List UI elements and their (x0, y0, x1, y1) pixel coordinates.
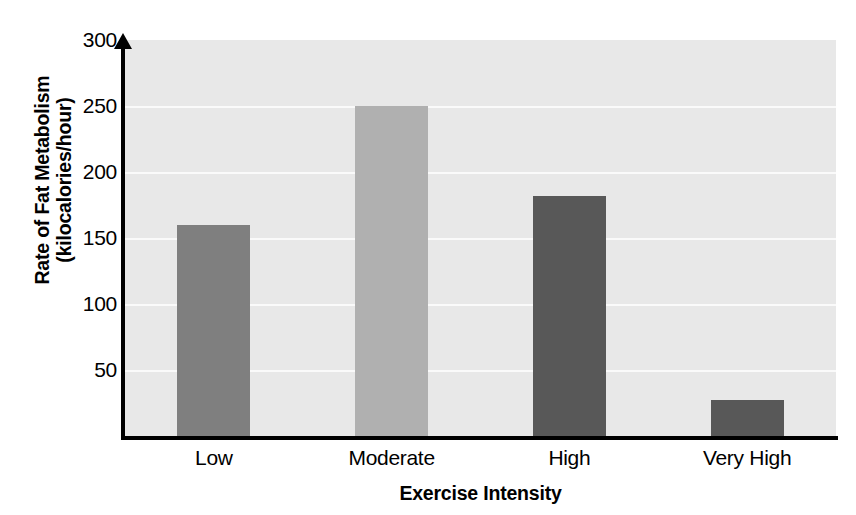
y-axis-line (121, 44, 125, 438)
x-axis-tick-label: Low (195, 446, 233, 470)
y-axis-tick-label: 300 (55, 28, 117, 52)
y-axis-tick-label: 250 (55, 94, 117, 118)
bar (177, 225, 250, 436)
bar (355, 106, 428, 436)
x-axis-tick-label: High (548, 446, 590, 470)
bar (533, 196, 606, 436)
x-axis-tick-label: Very High (703, 446, 791, 470)
x-axis-tick-labels: LowModerateHighVery High (125, 446, 836, 478)
x-axis-line (121, 436, 838, 440)
bar (711, 400, 784, 436)
y-axis-arrow-icon (114, 33, 132, 49)
y-axis-tick-labels: 50100150200250300 (55, 0, 117, 515)
y-axis-tick-label: 150 (55, 226, 117, 250)
y-axis-tick-label: 50 (55, 358, 117, 382)
y-axis-tick-label: 200 (55, 160, 117, 184)
x-axis-tick-label: Moderate (348, 446, 434, 470)
bar-chart-figure: Rate of Fat Metabolism (kilocalories/hou… (0, 0, 856, 515)
x-axis-title: Exercise Intensity (125, 482, 836, 505)
y-axis-title-line-1: Rate of Fat Metabolism (32, 75, 54, 284)
y-axis-tick-label: 100 (55, 292, 117, 316)
plot-area (125, 40, 836, 436)
gridline (125, 172, 836, 174)
gridline (125, 106, 836, 108)
